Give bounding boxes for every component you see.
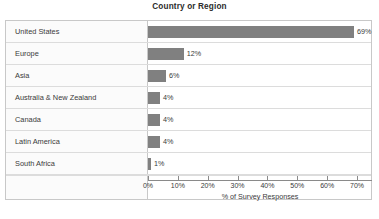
axis-tick-mark (297, 176, 298, 180)
chart-row: Latin America4% (6, 131, 371, 153)
bar (148, 92, 160, 104)
bar-value-label: 69% (357, 21, 371, 43)
chart-row: United States69% (6, 21, 371, 43)
bottom-caption (8, 208, 368, 219)
axis-tick-label: 30% (231, 182, 245, 189)
axis-tick-mark (208, 176, 209, 180)
bar-value-label: 4% (163, 87, 173, 109)
chart-row: Canada4% (6, 109, 371, 131)
bar (148, 48, 184, 60)
axis-tick-mark (357, 176, 358, 180)
chart-figure: Country or Region United States69%Europe… (0, 0, 379, 219)
chart-row: Europe12% (6, 43, 371, 65)
category-label: Canada (15, 109, 41, 131)
chart-row: South Africa1% (6, 153, 371, 175)
x-axis-title: % of Survey Responses (148, 192, 372, 201)
bar-value-label: 12% (187, 43, 201, 65)
axis-tick-label: 70% (350, 182, 364, 189)
bar (148, 136, 160, 148)
axis-tick-label: 60% (320, 182, 334, 189)
chart-row: Asia6% (6, 65, 371, 87)
axis-tick-label: 40% (260, 182, 274, 189)
axis-tick-label: 50% (290, 182, 304, 189)
bar (148, 26, 354, 38)
bar-value-label: 4% (163, 109, 173, 131)
axis-tick-label: 20% (201, 182, 215, 189)
axis-tick-label: 10% (171, 182, 185, 189)
category-label: United States (15, 21, 59, 43)
x-axis-line (148, 180, 372, 181)
bar (148, 70, 166, 82)
axis-tick-mark (178, 176, 179, 180)
axis-tick-mark (148, 176, 149, 180)
bar (148, 158, 151, 170)
chart-frame: United States69%Europe12%Asia6%Australia… (5, 20, 372, 200)
chart-row: Australia & New Zealand4% (6, 87, 371, 109)
axis-tick-mark (267, 176, 268, 180)
bar-value-label: 6% (169, 65, 179, 87)
axis-tick-label: 0% (143, 182, 153, 189)
bar-value-label: 4% (163, 131, 173, 153)
axis-tick-mark (327, 176, 328, 180)
chart-rows: United States69%Europe12%Asia6%Australia… (6, 21, 371, 199)
bar (148, 114, 160, 126)
category-label: Europe (15, 43, 39, 65)
category-label: South Africa (15, 153, 55, 175)
category-label: Latin America (15, 131, 60, 153)
x-axis: 0%10%20%30%40%50%60%70% % of Survey Resp… (6, 175, 371, 200)
chart-title: Country or Region (0, 2, 379, 11)
category-label: Asia (15, 65, 29, 87)
bar-value-label: 1% (154, 153, 164, 175)
axis-tick-mark (238, 176, 239, 180)
category-label: Australia & New Zealand (15, 87, 96, 109)
